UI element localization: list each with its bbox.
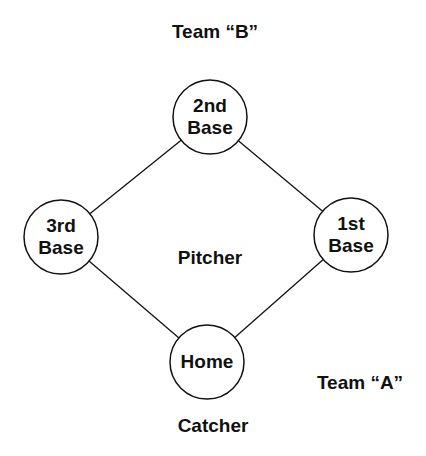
catcher-label: Catcher [163, 415, 263, 437]
second-base-line2: Base [173, 117, 247, 139]
first-base-label: 1st Base [314, 213, 388, 257]
second-base-label: 2nd Base [173, 95, 247, 139]
home-base-line1: Home [170, 351, 244, 373]
pitcher-label: Pitcher [160, 247, 260, 269]
team-a-label: Team “A” [300, 372, 420, 394]
third-base-line2: Base [24, 237, 98, 259]
third-base-label: 3rd Base [24, 215, 98, 259]
team-b-label: Team “B” [160, 21, 270, 43]
second-base-line1: 2nd [173, 95, 247, 117]
first-base-line2: Base [314, 235, 388, 257]
third-base-line1: 3rd [24, 215, 98, 237]
first-base-line1: 1st [314, 213, 388, 235]
home-base-label: Home [170, 351, 244, 373]
